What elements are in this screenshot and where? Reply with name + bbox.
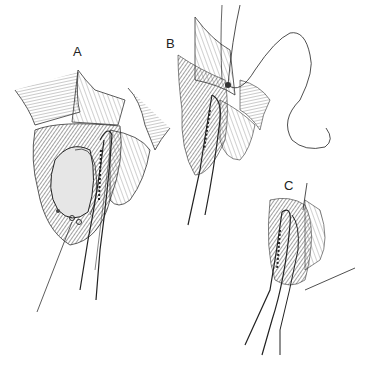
panel-label-b: B bbox=[166, 36, 175, 51]
panel-b bbox=[178, 5, 330, 225]
surgical-illustration: A B C bbox=[0, 0, 365, 369]
illustration-artwork bbox=[0, 0, 365, 369]
panel-a bbox=[15, 70, 170, 312]
panel-c bbox=[245, 183, 355, 355]
panel-label-c: C bbox=[284, 178, 293, 193]
panel-label-a: A bbox=[73, 44, 82, 59]
